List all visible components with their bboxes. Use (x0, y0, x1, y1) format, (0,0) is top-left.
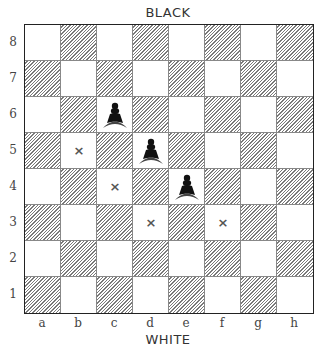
square-h7 (277, 61, 313, 97)
cross-marker-icon: × (217, 217, 229, 229)
square-e8 (169, 25, 205, 61)
square-f7 (205, 61, 241, 97)
square-g6 (241, 97, 277, 133)
square-c1 (97, 277, 133, 313)
file-label: f (204, 316, 240, 330)
square-c6 (97, 97, 133, 133)
square-a2 (25, 241, 61, 277)
square-g4 (241, 169, 277, 205)
square-b6 (61, 97, 97, 133)
square-h3 (277, 205, 313, 241)
cross-marker-icon: × (145, 217, 157, 229)
black-pawn-icon (99, 99, 131, 131)
square-g5 (241, 133, 277, 169)
square-f5 (205, 133, 241, 169)
square-a6 (25, 97, 61, 133)
square-c7 (97, 61, 133, 97)
square-h6 (277, 97, 313, 133)
file-label: g (240, 316, 276, 330)
square-c4: × (97, 169, 133, 205)
file-label: a (24, 316, 60, 330)
square-b8 (61, 25, 97, 61)
file-label: e (168, 316, 204, 330)
file-label: d (132, 316, 168, 330)
square-c2 (97, 241, 133, 277)
square-c3 (97, 205, 133, 241)
rank-label: 7 (8, 71, 18, 85)
square-a3 (25, 205, 61, 241)
square-c5 (97, 133, 133, 169)
square-b7 (61, 61, 97, 97)
square-h5 (277, 133, 313, 169)
square-f1 (205, 277, 241, 313)
rank-label: 4 (8, 179, 18, 193)
rank-label: 2 (8, 251, 18, 265)
cross-marker-icon: × (109, 181, 121, 193)
square-e7 (169, 61, 205, 97)
square-h4 (277, 169, 313, 205)
square-e1 (169, 277, 205, 313)
square-a8 (25, 25, 61, 61)
square-e6 (169, 97, 205, 133)
square-g8 (241, 25, 277, 61)
file-label: h (276, 316, 312, 330)
chess-board: ×××× (24, 24, 314, 314)
square-d7 (133, 61, 169, 97)
square-a4 (25, 169, 61, 205)
square-c8 (97, 25, 133, 61)
square-a5 (25, 133, 61, 169)
square-f8 (205, 25, 241, 61)
square-g7 (241, 61, 277, 97)
square-d1 (133, 277, 169, 313)
square-f3: × (205, 205, 241, 241)
square-e3 (169, 205, 205, 241)
square-d8 (133, 25, 169, 61)
square-d5 (133, 133, 169, 169)
square-b1 (61, 277, 97, 313)
square-b5: × (61, 133, 97, 169)
square-b3 (61, 205, 97, 241)
rank-label: 3 (8, 215, 18, 229)
rank-label: 8 (8, 35, 18, 49)
square-d4 (133, 169, 169, 205)
rank-label: 5 (8, 143, 18, 157)
square-d2 (133, 241, 169, 277)
square-g1 (241, 277, 277, 313)
cross-marker-icon: × (73, 145, 85, 157)
white-side-label: WHITE (0, 332, 325, 347)
file-label: c (96, 316, 132, 330)
black-pawn-icon (171, 171, 203, 203)
square-g2 (241, 241, 277, 277)
square-e4 (169, 169, 205, 205)
square-d3: × (133, 205, 169, 241)
file-label: b (60, 316, 96, 330)
square-b4 (61, 169, 97, 205)
square-g3 (241, 205, 277, 241)
square-d6 (133, 97, 169, 133)
square-e2 (169, 241, 205, 277)
square-e5 (169, 133, 205, 169)
square-h1 (277, 277, 313, 313)
square-a7 (25, 61, 61, 97)
black-pawn-icon (135, 135, 167, 167)
rank-label: 6 (8, 107, 18, 121)
square-a1 (25, 277, 61, 313)
square-f6 (205, 97, 241, 133)
square-h8 (277, 25, 313, 61)
square-f2 (205, 241, 241, 277)
square-f4 (205, 169, 241, 205)
square-h2 (277, 241, 313, 277)
black-side-label: BLACK (0, 5, 325, 20)
square-b2 (61, 241, 97, 277)
rank-label: 1 (8, 287, 18, 301)
